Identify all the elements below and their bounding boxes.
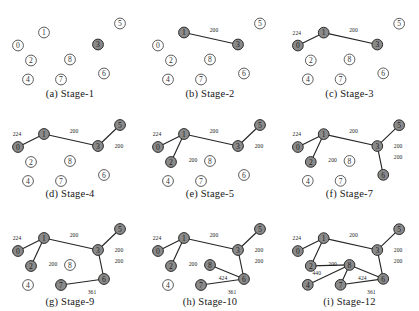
graph-node-4	[163, 280, 174, 291]
graph-node-4	[302, 74, 313, 85]
panel-b: 200012345678(b) Stage-2	[140, 0, 280, 103]
graph-node-8	[205, 156, 216, 167]
graph-node-7	[196, 280, 207, 291]
graph-node-6	[239, 274, 250, 285]
graph-node-2	[26, 55, 37, 66]
edge-weight-label: 361	[88, 289, 97, 295]
graph-node-0	[153, 246, 164, 257]
graph-node-4	[302, 279, 313, 290]
graph-node-6	[99, 170, 110, 181]
edge-weight-label: 200	[210, 128, 219, 134]
edge-weight-label: 200	[349, 232, 358, 238]
edge-weight-label: 200	[70, 232, 79, 238]
edge-weight-label: 200	[255, 247, 264, 253]
edge-weight-label: 224	[153, 131, 162, 137]
graph-node-4	[163, 74, 174, 85]
graph-edge	[184, 33, 238, 45]
graph-node-5	[115, 224, 126, 235]
graph-node-8	[205, 260, 216, 271]
edge-weight-label: 200	[115, 258, 124, 264]
panel-caption: (e) Stage-5	[140, 188, 280, 199]
graph-node-7	[56, 176, 67, 187]
graph-node-4	[23, 280, 34, 291]
graph-node-8	[65, 260, 76, 271]
panel-caption: (c) Stage-3	[280, 88, 419, 99]
panel-caption: (f) Stage-7	[280, 188, 419, 199]
graph-node-1	[318, 233, 329, 244]
edge-weight-label: 424	[219, 275, 228, 281]
graph-svg: 200224200200200361012345678	[0, 203, 140, 311]
graph-node-0	[293, 142, 304, 153]
panel-i: 200224200200200361424440012345678(i) Sta…	[280, 203, 419, 311]
edge-weight-label: 224	[293, 235, 302, 241]
graph-node-5	[255, 120, 266, 131]
graph-edge	[184, 134, 238, 146]
graph-node-0	[13, 142, 24, 153]
graph-canvas: 200224200200200361012345678	[0, 203, 140, 311]
panel-caption: (b) Stage-2	[140, 88, 280, 99]
graph-node-8	[344, 260, 355, 271]
graph-node-2	[305, 55, 316, 66]
graph-node-7	[196, 74, 207, 85]
graph-node-1	[39, 233, 50, 244]
graph-node-0	[293, 246, 304, 257]
graph-node-7	[56, 74, 67, 85]
edge-weight-label: 224	[293, 131, 302, 137]
panel-caption: (d) Stage-4	[0, 188, 140, 199]
edge-weight-label: 200	[189, 157, 198, 163]
graph-node-7	[335, 175, 346, 186]
graph-node-3	[233, 141, 244, 152]
panel-d: 200224200012345678(d) Stage-4	[0, 103, 140, 203]
edge-weight-label: 200	[349, 27, 358, 33]
graph-node-1	[318, 27, 329, 38]
graph-edge	[44, 134, 98, 146]
graph-svg: 200224200200200361424012345678	[140, 203, 280, 311]
edge-weight-label: 224	[293, 30, 302, 36]
panel-caption: (a) Stage-1	[0, 88, 140, 99]
edge-weight-label: 200	[189, 261, 198, 267]
panel-g: 200224200200200361012345678(g) Stage-9	[0, 203, 140, 311]
graph-node-0	[153, 142, 164, 153]
edge-weight-label: 200	[70, 128, 79, 134]
graph-node-7	[196, 176, 207, 187]
graph-node-0	[13, 246, 24, 257]
panel-c: 200224012345678(c) Stage-3	[280, 0, 419, 103]
edge-label-layer: 200224200	[13, 128, 124, 149]
stage-figure-grid: 012345678(a) Stage-1200012345678(b) Stag…	[0, 0, 419, 311]
graph-edge	[324, 238, 378, 250]
graph-node-4	[302, 175, 313, 186]
node-layer: 012345678	[13, 18, 126, 85]
edge-weight-label: 200	[328, 261, 337, 267]
edge-weight-label: 200	[394, 143, 403, 149]
graph-node-5	[255, 224, 266, 235]
graph-canvas: 200224200200200361424012345678	[140, 203, 280, 311]
edge-weight-label: 200	[394, 154, 403, 160]
graph-node-4	[23, 176, 34, 187]
graph-node-5	[394, 18, 405, 29]
graph-node-0	[293, 40, 304, 51]
graph-node-6	[378, 273, 389, 284]
graph-node-6	[239, 68, 250, 79]
graph-node-3	[372, 141, 383, 152]
graph-node-6	[378, 68, 389, 79]
graph-edge	[324, 134, 378, 146]
edge-weight-label: 200	[210, 27, 219, 33]
panel-h: 200224200200200361424012345678(h) Stage-…	[140, 203, 280, 311]
graph-node-2	[166, 55, 177, 66]
edge-weight-label: 361	[367, 289, 376, 295]
graph-node-1	[179, 233, 190, 244]
graph-node-3	[93, 245, 104, 256]
graph-node-5	[115, 18, 126, 29]
graph-node-5	[255, 18, 266, 29]
graph-svg: 200224200200200361424440012345678	[280, 203, 419, 311]
graph-node-2	[305, 261, 316, 272]
edge-weight-label: 200	[49, 261, 58, 267]
panel-f: 200224200200200012345678(f) Stage-7	[280, 103, 419, 203]
edge-weight-label: 200	[328, 157, 337, 163]
graph-node-7	[335, 279, 346, 290]
edge-weight-label: 224	[153, 235, 162, 241]
edge-weight-label: 200	[115, 247, 124, 253]
graph-node-6	[99, 68, 110, 79]
graph-node-8	[205, 54, 216, 65]
graph-edge	[184, 238, 238, 250]
